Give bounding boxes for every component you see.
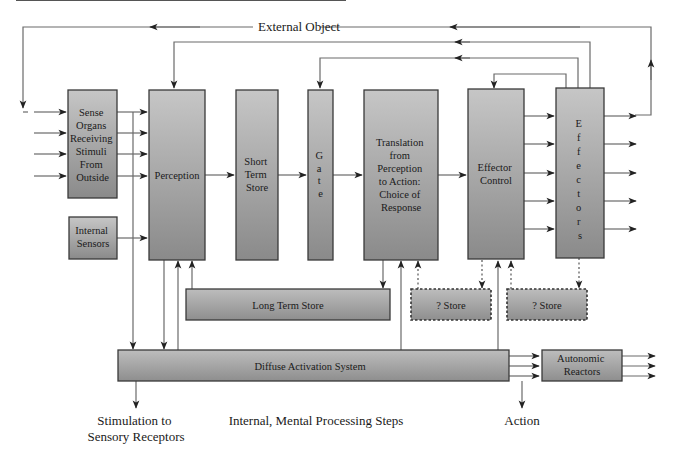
block-perception: Perception [149,90,205,260]
diffuse-to-autonomic [509,356,539,376]
control-to-effectors [524,116,554,229]
block-internal-sensors: Internal Sensors [69,217,117,259]
svg-text:? Store: ? Store [532,300,562,311]
external-object-label: External Object [258,19,340,34]
effector-outputs [604,116,636,229]
block-unknown-store-2: ? Store [507,289,587,320]
block-short-term-store: Short Term Store [236,90,278,260]
block-unknown-store-1: ? Store [411,289,491,320]
action-caption: Action [504,413,540,428]
svg-text:? Store: ? Store [436,300,466,311]
block-translation: Translation from Perception to Action: C… [364,90,438,260]
svg-text:Perception: Perception [155,170,201,181]
flow-diagram: External Object [0,0,677,458]
block-long-term-store: Long Term Store [186,289,390,320]
internal-steps-caption: Internal, Mental Processing Steps [229,413,404,428]
autonomic-outputs [622,356,655,376]
block-effectors: E f f e c t o r s [556,88,604,258]
block-effector-control: Effector Control [468,89,524,259]
effectors-to-translation-feedback [494,74,566,88]
sense-inputs [34,112,66,176]
svg-text:Diffuse Activation System: Diffuse Activation System [254,361,365,372]
effectors-to-perception-feedback [174,42,590,88]
svg-text:Short Term Store: Short Term Store [244,156,269,193]
block-autonomic-reactors: Autonomic Reactors [542,350,622,381]
block-diffuse-activation: Diffuse Activation System [118,350,509,381]
sense-to-perception [117,112,147,238]
block-sense-organs: Sense Organs Receiving Stimuli From Outs… [68,90,117,198]
effectors-to-gate-feedback [320,58,578,88]
block-gate: G a t e [308,90,333,260]
svg-text:Long Term Store: Long Term Store [252,300,324,311]
stimulation-caption: Stimulation to Sensory Receptors [87,413,184,444]
